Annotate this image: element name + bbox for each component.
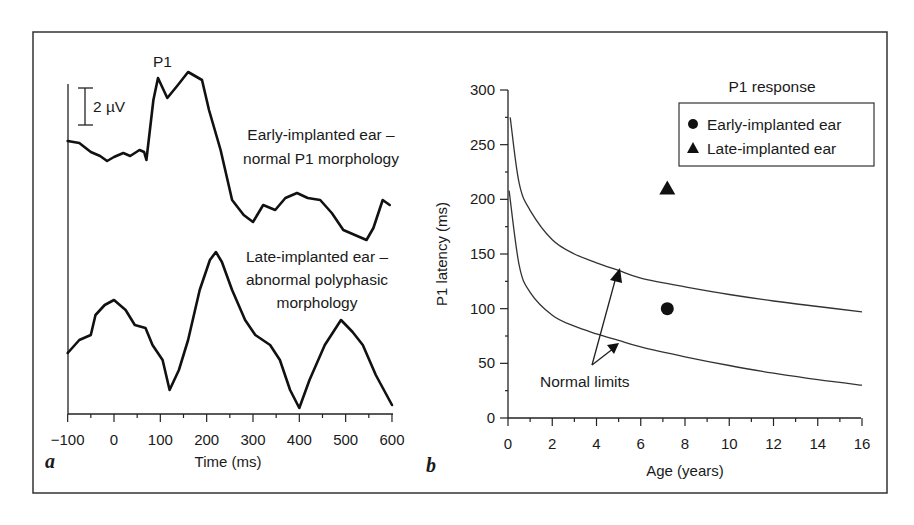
early-trace-label-line1: Early-implanted ear – bbox=[247, 126, 395, 143]
x-tick-label: 100 bbox=[148, 431, 173, 448]
panel-b-letter: b bbox=[426, 454, 436, 476]
x-tick-label: 0 bbox=[504, 435, 512, 452]
y-tick-label: 250 bbox=[470, 136, 495, 153]
early-trace-label-line2: normal P1 morphology bbox=[243, 150, 399, 167]
scale-bar-label: 2 µV bbox=[93, 98, 126, 115]
y-tick-label: 100 bbox=[470, 300, 495, 317]
panel-b-y-axis-label: P1 latency (ms) bbox=[433, 202, 450, 306]
legend-item-late: Late-implanted ear bbox=[707, 140, 836, 157]
normal-limits-label: Normal limits bbox=[540, 373, 630, 390]
y-tick-label: 0 bbox=[487, 409, 495, 426]
x-tick-label: −100 bbox=[51, 431, 85, 448]
panel-b-x-ticks bbox=[508, 418, 862, 426]
late-trace-label-line2: abnormal polyphasic bbox=[246, 271, 388, 288]
x-tick-label: 0 bbox=[110, 431, 118, 448]
panel-a-erp-waveforms: −1000100200300400500600 2 µV P1 Early-im… bbox=[45, 53, 404, 472]
x-tick-label: 2 bbox=[548, 435, 556, 452]
scale-bar: 2 µV bbox=[78, 88, 126, 125]
y-tick-label: 300 bbox=[470, 81, 495, 98]
x-tick-label: 16 bbox=[854, 435, 871, 452]
legend-item-early: Early-implanted ear bbox=[707, 116, 841, 133]
x-tick-label: 12 bbox=[765, 435, 782, 452]
y-tick-label: 150 bbox=[470, 245, 495, 262]
panel-b-y-ticks bbox=[500, 90, 508, 418]
x-tick-label: 14 bbox=[809, 435, 826, 452]
x-tick-label: 500 bbox=[333, 431, 358, 448]
late-implanted-point bbox=[659, 180, 675, 194]
x-tick-label: 4 bbox=[592, 435, 600, 452]
panel-a-x-tick-labels: −1000100200300400500600 bbox=[51, 431, 405, 448]
panel-a-letter: a bbox=[45, 450, 55, 472]
x-tick-label: 10 bbox=[721, 435, 738, 452]
figure: −1000100200300400500600 2 µV P1 Early-im… bbox=[0, 0, 914, 525]
panel-b-latency-vs-age: 050100150200250300 0246810121416 Normal … bbox=[426, 78, 874, 479]
panel-b-data-points bbox=[659, 180, 675, 315]
panel-b-x-tick-labels: 0246810121416 bbox=[504, 435, 871, 452]
x-tick-label: 8 bbox=[681, 435, 689, 452]
y-tick-label: 200 bbox=[470, 190, 495, 207]
panel-b-x-axis-label: Age (years) bbox=[646, 462, 724, 479]
normal-limits-arrows bbox=[592, 268, 622, 365]
panel-a-x-axis-label: Time (ms) bbox=[195, 453, 262, 470]
x-tick-label: 600 bbox=[379, 431, 404, 448]
figure-frame bbox=[33, 32, 887, 493]
legend-title: P1 response bbox=[728, 78, 815, 95]
p1-peak-label: P1 bbox=[153, 53, 172, 70]
panel-a-x-ticks bbox=[68, 414, 392, 422]
x-tick-label: 400 bbox=[287, 431, 312, 448]
legend-circle-icon bbox=[688, 119, 698, 129]
x-tick-label: 6 bbox=[637, 435, 645, 452]
y-tick-label: 50 bbox=[478, 354, 495, 371]
early-implanted-point bbox=[661, 302, 674, 315]
panel-b-y-tick-labels: 050100150200250300 bbox=[470, 81, 495, 426]
legend: Early-implanted ear Late-implanted ear bbox=[679, 103, 874, 166]
late-trace-label-line1: Late-implanted ear – bbox=[246, 248, 389, 265]
x-tick-label: 200 bbox=[194, 431, 219, 448]
x-tick-label: 300 bbox=[240, 431, 265, 448]
late-trace-label-line3: morphology bbox=[277, 294, 358, 311]
normal-limit-lower-curve bbox=[509, 191, 862, 386]
